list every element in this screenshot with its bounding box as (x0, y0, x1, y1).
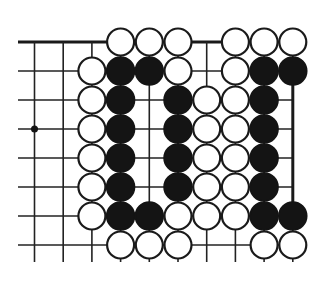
black-stone (250, 173, 278, 201)
black-stone (250, 202, 278, 230)
white-stone (136, 232, 163, 259)
white-stone (222, 58, 249, 85)
black-stone (250, 144, 278, 172)
white-stone (78, 145, 105, 172)
white-stone (78, 203, 105, 230)
black-stone (107, 144, 135, 172)
white-stone (165, 29, 192, 56)
black-stone (107, 173, 135, 201)
white-stone (222, 203, 249, 230)
black-stone (107, 202, 135, 230)
black-stone (135, 57, 163, 85)
white-stone (107, 232, 134, 259)
black-stone (279, 57, 307, 85)
black-stone (279, 202, 307, 230)
black-stone (164, 115, 192, 143)
white-stone (193, 203, 220, 230)
white-stone (78, 116, 105, 143)
black-stone (164, 173, 192, 201)
black-stone (164, 86, 192, 114)
black-stone (107, 57, 135, 85)
white-stone (165, 203, 192, 230)
go-board (0, 0, 328, 296)
white-stone (107, 29, 134, 56)
white-stone (222, 174, 249, 201)
white-stone (193, 145, 220, 172)
white-stone (78, 174, 105, 201)
black-stone (107, 86, 135, 114)
white-stone (78, 87, 105, 114)
black-stone (107, 115, 135, 143)
stones (78, 29, 306, 259)
white-stone (78, 58, 105, 85)
white-stone (222, 145, 249, 172)
white-stone (279, 232, 306, 259)
white-stone (193, 174, 220, 201)
white-stone (222, 29, 249, 56)
black-stone (250, 57, 278, 85)
star-points (31, 126, 38, 133)
black-stone (164, 144, 192, 172)
white-stone (165, 58, 192, 85)
black-stone (250, 86, 278, 114)
black-stone (250, 115, 278, 143)
white-stone (251, 232, 278, 259)
white-stone (222, 87, 249, 114)
white-stone (193, 87, 220, 114)
white-stone (165, 232, 192, 259)
white-stone (136, 29, 163, 56)
white-stone (222, 116, 249, 143)
star-point (31, 126, 38, 133)
white-stone (193, 116, 220, 143)
white-stone (279, 29, 306, 56)
black-stone (135, 202, 163, 230)
white-stone (251, 29, 278, 56)
